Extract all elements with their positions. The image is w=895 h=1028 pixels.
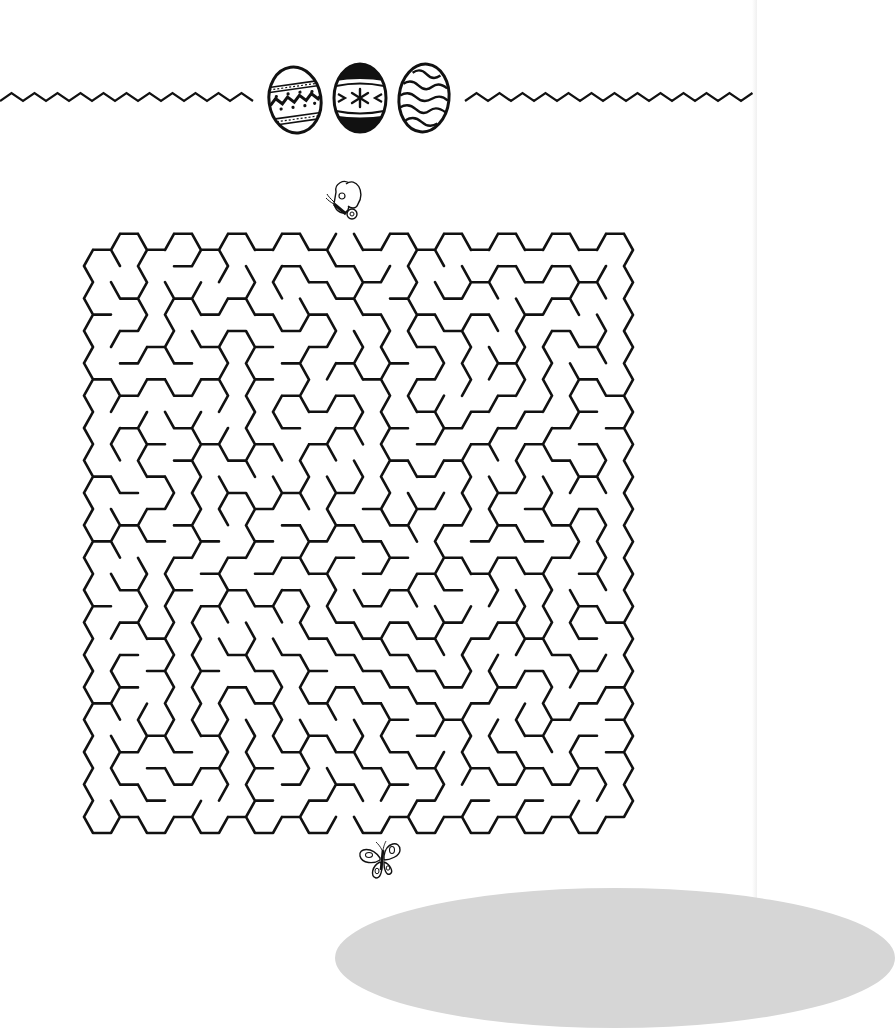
maze-walls [84,234,633,833]
